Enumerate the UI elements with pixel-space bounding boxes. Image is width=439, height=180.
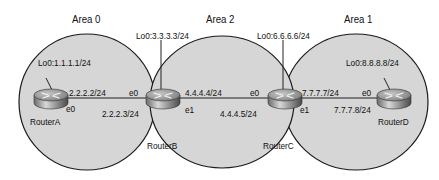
router-c-icon — [268, 89, 302, 109]
link-a-b-if-b: e0 — [129, 89, 138, 98]
router-b-loopback: Lo0:3.3.3.3/24 — [136, 32, 189, 41]
link-b-c-ip-b: 4.4.4.5/24 — [220, 110, 257, 119]
link-a-b-ip-b: 2.2.2.3/24 — [102, 110, 139, 119]
link-a-b-ip-a: 2.2.2.2/24 — [69, 89, 106, 98]
router-a-icon — [34, 89, 68, 109]
link-c-d-if-b: e0 — [362, 89, 371, 98]
router-c-name: RouterC — [263, 142, 294, 151]
link-b-c-if-a: e1 — [185, 106, 194, 115]
link-b-c-ip-a: 4.4.4.4/24 — [185, 89, 222, 98]
router-b-name: RouterB — [147, 142, 177, 151]
link-a-b-if-a: e0 — [66, 105, 75, 114]
area-0-label: Area 0 — [72, 14, 100, 25]
router-b-icon — [146, 89, 180, 109]
router-d-icon — [377, 89, 411, 109]
router-d-name: RouterD — [378, 118, 409, 127]
router-c-loopback: Lo0:6.6.6.6/24 — [257, 32, 310, 41]
link-c-d-ip-a: 7.7.7.7/24 — [302, 89, 339, 98]
router-d-loopback: Lo0:8.8.8.8/24 — [346, 59, 399, 68]
router-a-name: RouterA — [30, 118, 60, 127]
link-c-d-ip-b: 7.7.7.8/24 — [334, 106, 371, 115]
area-1-label: Area 1 — [344, 14, 372, 25]
link-c-d-if-a: e1 — [300, 106, 309, 115]
area-2-label: Area 2 — [206, 14, 234, 25]
router-a-loopback: Lo0:1.1.1.1/24 — [38, 59, 91, 68]
link-b-c-if-b: e0 — [250, 89, 259, 98]
